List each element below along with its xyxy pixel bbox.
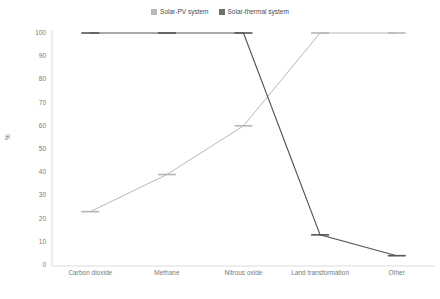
series-line bbox=[90, 33, 396, 212]
series-solar-thermal bbox=[81, 33, 405, 256]
axis-lines bbox=[52, 30, 435, 266]
plot-area bbox=[0, 0, 440, 299]
series-group bbox=[81, 33, 405, 256]
chart-container: Solar-PV system Solar-thermal system % 1… bbox=[0, 0, 440, 299]
series-solar-pv bbox=[81, 33, 405, 212]
series-line bbox=[90, 33, 396, 256]
